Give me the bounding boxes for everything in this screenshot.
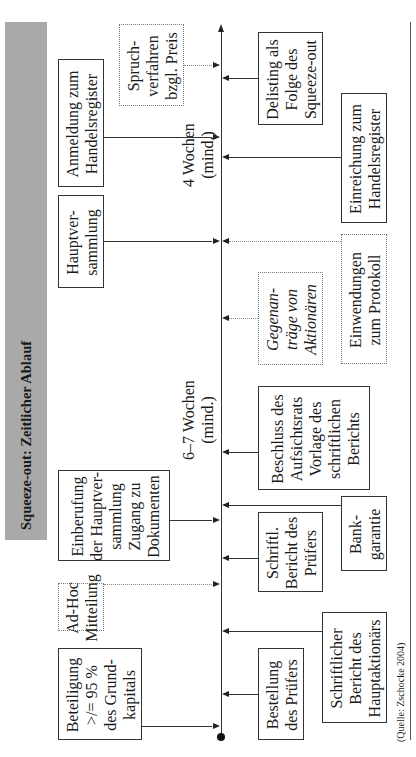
connector-anmeldung	[104, 137, 212, 138]
event-delisting: Delisting als Folge des Squeeze-out	[258, 32, 323, 125]
duration-label: 4 Wochen (mind.)	[179, 123, 217, 187]
event-bestellung-pruefer: Bestellung des Prüfers	[258, 648, 304, 740]
connector-bericht-pruefer	[229, 558, 258, 559]
event-anmeldung-handelsregister: Anmeldung zum Handelsregister	[58, 59, 104, 187]
connector-bestellung	[229, 694, 258, 695]
event-spruchverfahren: Spruch- verfahren bzgl. Preis	[119, 24, 184, 106]
event-label: Gegenan- träge von Aktionären	[263, 284, 320, 355]
arrow-left-icon	[222, 75, 229, 81]
arrow-left-icon	[222, 691, 229, 697]
connector-einreichung	[229, 157, 341, 158]
source-note: (Quelle: Zschocke 2004)	[395, 643, 406, 742]
arrow-left-icon	[222, 154, 229, 160]
event-beteiligung: Beteiligung >/= 95 % des Grund- kapitals	[58, 648, 142, 740]
frame-right-border	[410, 22, 411, 740]
event-label: Ad-Hoc Mitteilung	[63, 574, 101, 642]
timeline-arrowhead-icon	[218, 24, 224, 32]
arrow-right-icon	[213, 238, 220, 244]
event-label: Spruch- verfahren bzgl. Preis	[124, 32, 181, 100]
event-label: Schriftlicher Bericht des Hauptaktionärs	[327, 620, 384, 718]
event-beschluss-aufsichtsrat: Beschluss des Aufsichtsrats Vorlage des …	[258, 386, 370, 490]
diagram-title-wrap: Squeeze-out: Zeitlicher Ablauf	[5, 22, 47, 540]
arrow-right-icon	[213, 723, 220, 729]
diagram-title: Squeeze-out: Zeitlicher Ablauf	[18, 341, 35, 530]
arrow-left-icon	[222, 315, 229, 321]
event-einwendungen: Einwendungen zum Protokoll	[341, 234, 387, 364]
event-ad-hoc-mitteilung: Ad-Hoc Mitteilung	[58, 583, 104, 631]
event-label: Einberufung der Hauptver- sammlung Zugan…	[68, 472, 163, 561]
arrow-left-icon	[222, 628, 229, 634]
event-einreichung-handelsregister: Einreichung zum Handelsregister	[341, 93, 387, 223]
connector-einberufung	[170, 520, 212, 521]
event-label: Einwendungen zum Protokoll	[346, 252, 384, 348]
connector-bericht-hauptaktionaer	[229, 631, 322, 632]
connector-einwendungen	[229, 241, 341, 242]
event-label: Anmeldung zum Handelsregister	[63, 70, 101, 177]
arrow-right-icon	[213, 134, 220, 140]
connector-gegenantraege	[229, 318, 258, 319]
event-label: Hauptver- sammlung	[63, 209, 101, 276]
event-label: Bank- garantie	[346, 509, 384, 561]
connector-delisting	[229, 78, 258, 79]
arrow-left-icon	[222, 555, 229, 561]
connector-hauptversammlung	[104, 241, 212, 242]
connector-bankgarantie	[229, 505, 341, 506]
connector-beschluss	[229, 452, 258, 453]
connector-spruchverfahren	[184, 65, 212, 66]
event-label: Delisting als Folge des Squeeze-out	[263, 39, 320, 119]
event-bericht-hauptaktionaer: Schriftlicher Bericht des Hauptaktionärs	[322, 612, 387, 723]
event-label: Beteiligung >/= 95 % des Grund- kapitals	[63, 658, 139, 733]
arrow-right-icon	[213, 517, 220, 523]
duration-6-7-wochen: 6–7 Wochen (mind.)	[176, 345, 220, 495]
arrow-left-icon	[222, 238, 229, 244]
event-gegenantraege: Gegenan- träge von Aktionären	[258, 272, 323, 365]
connector-ad-hoc	[104, 584, 212, 585]
event-einberufung: Einberufung der Hauptver- sammlung Zugan…	[58, 470, 170, 561]
event-bankgarantie: Bank- garantie	[341, 496, 387, 571]
connector-beteiligung	[142, 726, 212, 727]
arrow-left-icon	[222, 449, 229, 455]
duration-label: 6–7 Wochen (mind.)	[179, 380, 217, 460]
source-note-wrap: (Quelle: Zschocke 2004)	[392, 602, 408, 742]
duration-4-wochen: 4 Wochen (mind.)	[176, 95, 220, 215]
arrow-left-icon	[222, 502, 229, 508]
event-hauptversammlung: Hauptver- sammlung	[58, 195, 104, 288]
event-label: Einreichung zum Handelsregister	[346, 104, 384, 214]
event-label: Schriftl. Bericht des Prüfers	[263, 517, 320, 589]
arrow-right-icon	[213, 581, 220, 587]
event-label: Beschluss des Aufsichtsrats Vorlage des …	[268, 394, 363, 483]
timeline-start-dot	[217, 733, 225, 741]
event-bericht-pruefer: Schriftl. Bericht des Prüfers	[258, 512, 323, 592]
event-label: Bestellung des Prüfers	[263, 659, 301, 731]
arrow-right-icon	[213, 62, 220, 68]
